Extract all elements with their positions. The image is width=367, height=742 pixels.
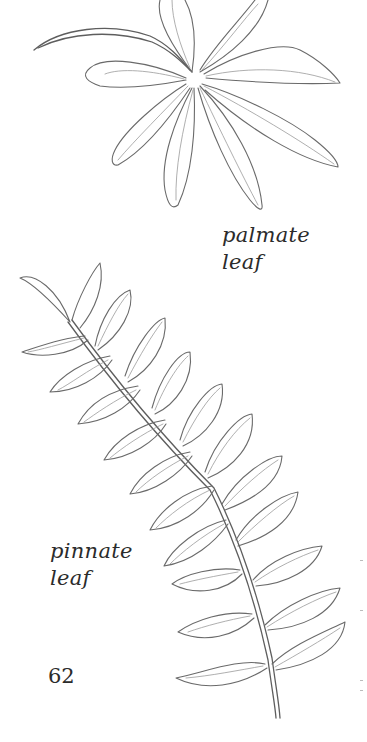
gutter-mark <box>360 680 363 681</box>
page-number: 62 <box>48 664 75 688</box>
palmate-leaf-label: palmate leaf <box>222 222 310 276</box>
pinnate-label-line-1: pinnate <box>50 538 133 565</box>
gutter-mark <box>360 690 363 691</box>
gutter-mark <box>360 610 363 611</box>
pinnate-label-line-2: leaf <box>50 565 133 592</box>
pinnate-leaf-illustration <box>0 0 367 742</box>
gutter-mark <box>360 560 363 561</box>
pinnate-leaf-label: pinnate leaf <box>50 538 133 592</box>
palmate-label-line-2: leaf <box>222 249 310 276</box>
palmate-label-line-1: palmate <box>222 222 310 249</box>
